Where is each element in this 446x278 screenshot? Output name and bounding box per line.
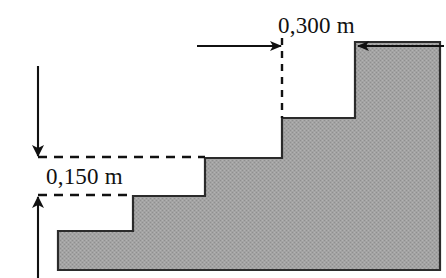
vertical-dimension-label: 0,150 m xyxy=(46,164,123,189)
horizontal-dimension-label: 0,300 m xyxy=(278,13,355,38)
diagram-canvas: 0,300 m 0,150 m xyxy=(0,0,446,278)
stepped-section-figure: 0,300 m 0,150 m xyxy=(0,0,446,278)
